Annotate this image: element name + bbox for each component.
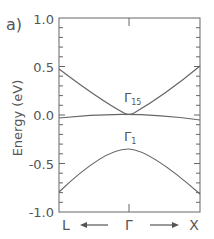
y-ticks-right: [194, 28, 200, 203]
ytick-label: 1.0: [33, 12, 54, 27]
band-structure-chart: a) 1.0 0.5 0.0 -0.5 -1.0 Energy (eV) L Γ…: [0, 0, 214, 239]
y-axis-label: Energy (eV): [10, 80, 25, 157]
annotation-gamma1: Γ1: [124, 129, 136, 146]
ytick-label: 0.5: [33, 60, 54, 75]
ytick-label: 0.0: [33, 108, 54, 123]
arrow-left-icon: [80, 222, 108, 228]
band-gamma15-flat: [59, 114, 200, 120]
ytick-label: -1.0: [29, 205, 54, 220]
annotation-gamma15: Γ15: [124, 90, 141, 107]
panel-label: a): [6, 15, 22, 34]
xtick-label-X: X: [189, 217, 199, 233]
band-gamma1: [59, 149, 200, 194]
xtick-label-L: L: [62, 217, 70, 233]
ytick-label: -0.5: [29, 157, 54, 172]
xtick-label-gamma: Γ: [125, 217, 133, 233]
arrow-right-icon: [150, 222, 179, 228]
y-ticks-left: [59, 28, 65, 203]
